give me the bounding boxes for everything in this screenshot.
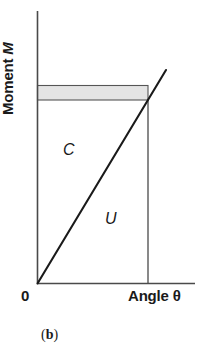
y-axis-title-symbol: M [0, 42, 16, 54]
moment-angle-line [38, 70, 167, 284]
figure-panel-b: Moment M Angle θ 0 C U (b) [0, 0, 209, 352]
panel-caption: (b) [41, 328, 58, 342]
x-axis-title: Angle θ [128, 288, 181, 303]
region-u-label: U [105, 211, 117, 227]
region-c-label: C [63, 142, 75, 158]
caption-close-paren: ) [53, 327, 58, 342]
moment-increment-band [38, 86, 149, 101]
x-axis-title-text: Angle [128, 287, 173, 304]
y-axis-title: Moment M [0, 0, 18, 120]
origin-label: 0 [21, 288, 29, 303]
y-axis-title-text: Moment [0, 55, 16, 115]
x-axis-title-symbol: θ [173, 287, 181, 304]
